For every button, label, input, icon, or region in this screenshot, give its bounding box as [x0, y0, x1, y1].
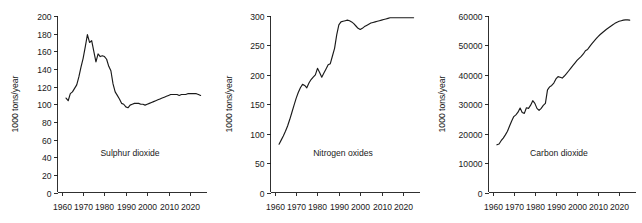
y-tick-label: 40000: [459, 71, 483, 81]
x-tick-label: 2010: [589, 202, 608, 212]
y-tick-label: 200: [250, 71, 265, 81]
x-tick-label: 2020: [610, 202, 629, 212]
x-tick-label: 1960: [266, 202, 285, 212]
y-tick-label: 160: [37, 47, 52, 57]
x-tick-label: 2010: [160, 202, 179, 212]
y-tick-label: 50: [255, 159, 265, 169]
y-tick-label: 100: [37, 100, 52, 110]
y-tick-marks-2: [485, 17, 489, 194]
x-tick-marks-2: [494, 193, 620, 197]
y-tick-label: 0: [260, 189, 265, 199]
x-tick-label: 1970: [74, 202, 93, 212]
x-tick-label: 2020: [394, 202, 413, 212]
y-axis-title-1: 1000 tons/year: [224, 75, 234, 132]
x-axis-group-2: 1960197019801990200020102020: [484, 193, 636, 212]
x-tick-label: 1970: [505, 202, 524, 212]
y-tick-label: 20: [42, 171, 52, 181]
y-tick-label: 180: [37, 30, 52, 40]
y-tick-marks-0: [54, 17, 58, 194]
y-axis-title-2: 1000 tons/year: [437, 75, 447, 132]
y-tick-label: 100: [250, 130, 265, 140]
x-tick-labels-1: 1960197019801990200020102020: [266, 202, 413, 212]
x-tick-labels-0: 1960197019801990200020102020: [53, 202, 200, 212]
y-tick-label: 30000: [459, 100, 483, 110]
y-tick-marks-1: [267, 17, 271, 194]
x-tick-label: 2010: [373, 202, 392, 212]
nitrogen-oxides-chart: 050100150200250300 1000 tons/year 196019…: [214, 0, 428, 223]
chart-panel-sulphur-dioxide: 020406080100120140160180200 1000 tons/ye…: [0, 0, 214, 223]
y-axis-group-2: 0100002000030000400005000060000 1000 ton…: [437, 12, 489, 199]
sulphur-dioxide-chart: 020406080100120140160180200 1000 tons/ye…: [0, 0, 214, 223]
y-tick-label: 60000: [459, 12, 483, 22]
y-tick-labels-0: 020406080100120140160180200: [37, 12, 52, 199]
data-series-line-2: [497, 20, 630, 145]
x-tick-label: 1990: [117, 202, 136, 212]
y-axis-title-0: 1000 tons/year: [10, 75, 20, 132]
x-axis-group-1: 1960197019801990200020102020: [266, 193, 420, 212]
chart-panel-carbon-dioxide: 0100002000030000400005000060000 1000 ton…: [428, 0, 642, 223]
series-label-nitrogen-oxides: Nitrogen oxides: [313, 148, 373, 158]
x-tick-label: 1980: [95, 202, 114, 212]
y-tick-label: 0: [478, 189, 483, 199]
data-series-line-1: [279, 18, 414, 144]
y-tick-label: 60: [42, 136, 52, 146]
x-tick-label: 2000: [568, 202, 587, 212]
series-label-sulphur-dioxide: Sulphur dioxide: [100, 148, 159, 158]
y-tick-label: 200: [37, 12, 52, 22]
data-series-line-0: [66, 35, 201, 108]
y-tick-label: 50000: [459, 41, 483, 51]
y-tick-label: 20000: [459, 130, 483, 140]
x-tick-label: 2020: [181, 202, 200, 212]
y-tick-label: 80: [42, 118, 52, 128]
y-tick-labels-2: 0100002000030000400005000060000: [459, 12, 483, 199]
x-tick-label: 1980: [526, 202, 545, 212]
y-tick-label: 150: [250, 100, 265, 110]
y-tick-labels-1: 050100150200250300: [250, 12, 265, 199]
y-tick-label: 300: [250, 12, 265, 22]
y-tick-label: 10000: [459, 159, 483, 169]
series-label-carbon-dioxide: Carbon dioxide: [530, 148, 588, 158]
x-tick-label: 1970: [287, 202, 306, 212]
y-tick-label: 0: [47, 189, 52, 199]
x-tick-label: 1990: [330, 202, 349, 212]
y-tick-label: 40: [42, 153, 52, 163]
carbon-dioxide-chart: 0100002000030000400005000060000 1000 ton…: [428, 0, 642, 223]
emissions-figure: 020406080100120140160180200 1000 tons/ye…: [0, 0, 642, 223]
y-tick-label: 120: [37, 83, 52, 93]
x-tick-labels-2: 1960197019801990200020102020: [484, 202, 629, 212]
x-tick-marks-1: [276, 193, 404, 197]
x-tick-label: 2000: [351, 202, 370, 212]
y-tick-label: 140: [37, 65, 52, 75]
y-axis-group-1: 050100150200250300 1000 tons/year: [224, 12, 271, 199]
x-tick-label: 2000: [138, 202, 157, 212]
x-tick-label: 1960: [484, 202, 503, 212]
x-tick-label: 1980: [308, 202, 327, 212]
x-axis-group-0: 1960197019801990200020102020: [53, 193, 207, 212]
x-tick-marks-0: [63, 193, 191, 197]
x-tick-label: 1960: [53, 202, 72, 212]
chart-panel-nitrogen-oxides: 050100150200250300 1000 tons/year 196019…: [214, 0, 428, 223]
y-tick-label: 250: [250, 41, 265, 51]
x-tick-label: 1990: [547, 202, 566, 212]
y-axis-group-0: 020406080100120140160180200 1000 tons/ye…: [10, 12, 58, 199]
